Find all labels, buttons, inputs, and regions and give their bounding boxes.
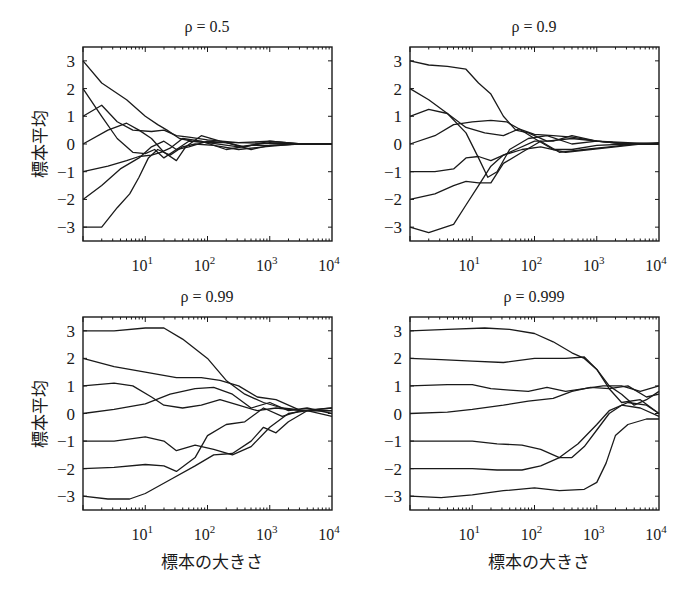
panel-rho-0.9: ρ = 0.9 3210−1−2−3101102103104 — [384, 18, 667, 274]
y-tick-label: 1 — [394, 107, 403, 126]
y-tick-label: −1 — [57, 432, 75, 451]
plot-frame — [83, 317, 332, 510]
x-tick-label: 102 — [194, 254, 216, 274]
series-lines — [410, 328, 659, 498]
x-tick-label: 104 — [318, 523, 340, 543]
y-tick-label: 1 — [394, 377, 403, 396]
y-tick-label: 3 — [394, 52, 403, 71]
x-tick-label: 101 — [459, 254, 481, 274]
y-tick-label: 2 — [67, 349, 76, 368]
y-tick-label: −1 — [57, 163, 75, 182]
panel-rho-0.999: ρ = 0.999 3210−1−2−3101102103104標本の大きさ — [384, 288, 667, 572]
y-tick-label: −1 — [384, 432, 402, 451]
series-line — [410, 120, 659, 144]
figure-grid: ρ = 0.5 3210−1−2−3101102103104標本平均 ρ = 0… — [0, 0, 683, 592]
x-tick-label: 103 — [256, 523, 278, 543]
y-axis-label: 標本平均 — [31, 380, 50, 448]
x-tick-label: 101 — [459, 523, 481, 543]
panel-title: ρ = 0.5 — [184, 18, 229, 36]
y-tick-label: −3 — [57, 487, 75, 506]
panel-rho-0.99: ρ = 0.99 3210−1−2−3101102103104標本平均標本の大き… — [31, 288, 340, 572]
y-tick-label: −2 — [384, 190, 402, 209]
y-tick-label: −2 — [57, 460, 75, 479]
x-tick-label: 103 — [583, 523, 605, 543]
x-tick-label: 103 — [256, 254, 278, 274]
series-line — [410, 385, 659, 392]
series-line — [410, 357, 659, 405]
x-tick-label: 101 — [132, 254, 154, 274]
series-line — [83, 141, 332, 199]
y-tick-label: 1 — [67, 377, 76, 396]
series-line — [83, 408, 332, 455]
panel-title: ρ = 0.99 — [180, 288, 233, 306]
y-tick-label: 0 — [394, 135, 403, 154]
x-axis-label: 標本の大きさ — [488, 553, 590, 572]
y-tick-label: 0 — [394, 405, 403, 424]
y-tick-label: 2 — [394, 80, 403, 99]
series-line — [83, 144, 332, 227]
series-lines — [83, 328, 332, 499]
y-tick-label: 3 — [394, 322, 403, 341]
x-tick-label: 103 — [583, 254, 605, 274]
y-tick-label: 2 — [394, 349, 403, 368]
x-tick-label: 102 — [521, 523, 543, 543]
y-tick-label: 1 — [67, 107, 76, 126]
x-tick-label: 102 — [521, 254, 543, 274]
y-tick-label: −3 — [384, 487, 402, 506]
panel-rho-0.5: ρ = 0.5 3210−1−2−3101102103104標本平均 — [31, 18, 340, 274]
y-tick-label: 2 — [67, 80, 76, 99]
series-line — [410, 89, 659, 178]
series-line — [410, 136, 659, 172]
y-tick-label: −2 — [57, 190, 75, 209]
y-tick-label: 3 — [67, 52, 76, 71]
series-lines — [410, 61, 659, 233]
series-line — [410, 419, 659, 498]
x-axis-label: 標本の大きさ — [161, 553, 263, 572]
y-tick-label: 0 — [67, 405, 76, 424]
y-tick-label: −3 — [384, 218, 402, 237]
panel-title: ρ = 0.999 — [503, 288, 564, 306]
x-tick-label: 104 — [645, 254, 667, 274]
series-line — [83, 61, 332, 144]
series-line — [410, 61, 659, 144]
y-tick-label: −1 — [384, 163, 402, 182]
x-tick-label: 104 — [645, 523, 667, 543]
y-tick-label: 3 — [67, 322, 76, 341]
plot-frame — [410, 317, 659, 510]
x-tick-label: 104 — [318, 254, 340, 274]
x-tick-label: 101 — [132, 523, 154, 543]
y-axis-label: 標本平均 — [31, 110, 50, 178]
x-tick-label: 102 — [194, 523, 216, 543]
y-tick-label: −2 — [384, 460, 402, 479]
y-tick-label: 0 — [67, 135, 76, 154]
series-line — [83, 328, 332, 411]
series-line — [83, 411, 332, 499]
series-line — [410, 405, 659, 457]
series-line — [83, 387, 332, 413]
series-lines — [83, 61, 332, 227]
y-tick-label: −3 — [57, 218, 75, 237]
panel-title: ρ = 0.9 — [511, 18, 556, 36]
